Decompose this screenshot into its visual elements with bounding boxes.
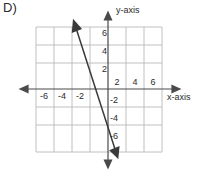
y-tick-label-neg6: -6	[110, 132, 124, 141]
graph-svg	[0, 0, 202, 172]
y-tick-label-4: 4	[98, 47, 107, 56]
y-tick-label-neg4: -4	[110, 114, 124, 123]
y-tick-label-neg2: -2	[110, 96, 124, 105]
y-axis-bottom-arrowhead	[104, 160, 111, 168]
line-bottom-arrowhead	[111, 147, 119, 157]
x-axis-right-arrowhead	[172, 85, 180, 92]
x-axis-left-arrowhead	[20, 85, 28, 92]
coordinate-plane-figure: D) y-axis x-axis	[0, 0, 202, 172]
line-top-arrowhead	[73, 21, 81, 32]
x-tick-label-4: 4	[130, 78, 140, 87]
x-tick-label-neg4: -4	[56, 92, 68, 101]
x-tick-label-2: 2	[112, 78, 122, 87]
y-tick-label-6: 6	[98, 29, 107, 38]
x-tick-label-6: 6	[148, 78, 158, 87]
x-tick-label-neg6: -6	[38, 92, 50, 101]
x-tick-label-neg2: -2	[74, 92, 86, 101]
y-axis-top-arrowhead	[104, 12, 111, 20]
y-tick-label-2: 2	[98, 65, 107, 74]
